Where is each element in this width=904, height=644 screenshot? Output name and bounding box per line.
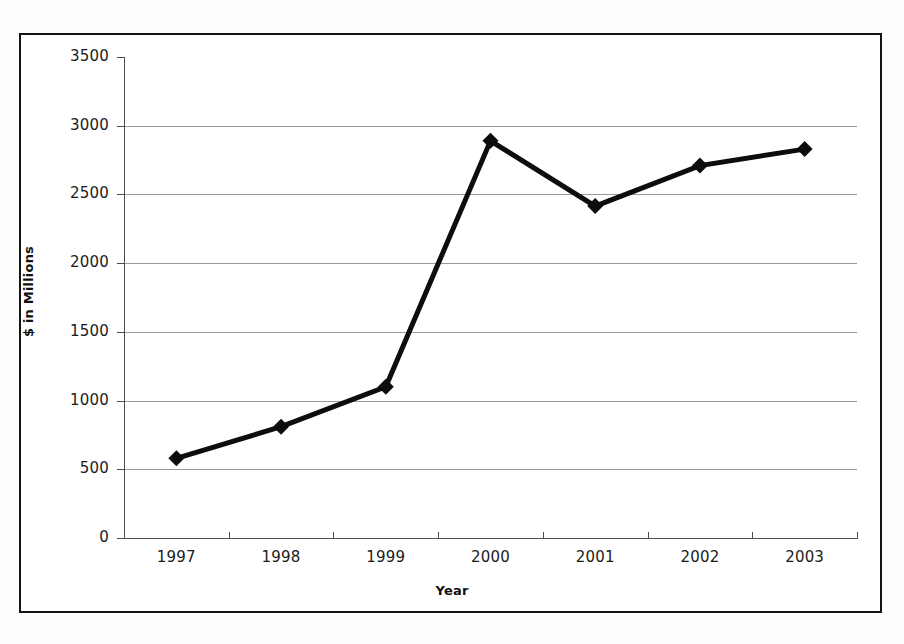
data-point-marker bbox=[378, 379, 394, 395]
chart-page: 0500100015002000250030003500 19971998199… bbox=[0, 0, 904, 644]
x-axis-title: Year bbox=[0, 583, 904, 598]
series-line-group bbox=[0, 0, 904, 644]
data-point-marker bbox=[797, 141, 813, 157]
plot-area: 0500100015002000250030003500 19971998199… bbox=[0, 0, 904, 644]
data-point-marker bbox=[692, 158, 708, 174]
series-markers bbox=[168, 133, 812, 466]
series-line bbox=[176, 141, 804, 459]
y-axis-title: $ in Millions bbox=[21, 222, 36, 362]
data-point-marker bbox=[273, 419, 289, 435]
data-point-marker bbox=[168, 450, 184, 466]
